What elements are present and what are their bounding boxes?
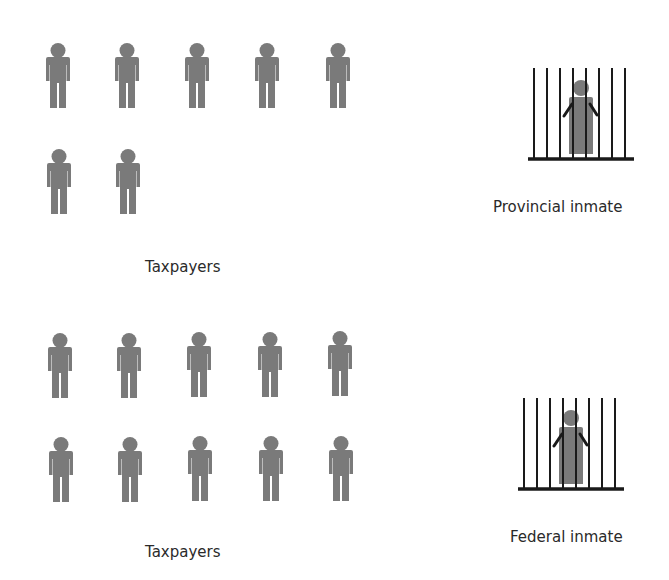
person-icon	[323, 43, 353, 109]
taxpayers-label: Taxpayers	[145, 258, 221, 276]
person-icon	[113, 149, 143, 215]
person-icon	[43, 43, 73, 109]
jailed-person-icon	[528, 68, 634, 164]
person-icon	[114, 333, 144, 399]
person-icon	[185, 436, 215, 502]
person-icon	[184, 332, 214, 398]
inmate-label: Federal inmate	[510, 528, 623, 546]
person-icon	[182, 43, 212, 109]
person-icon	[252, 43, 282, 109]
person-icon	[115, 437, 145, 503]
person-icon	[326, 436, 356, 502]
person-icon	[46, 437, 76, 503]
person-icon	[45, 333, 75, 399]
person-icon	[256, 436, 286, 502]
person-icon	[112, 43, 142, 109]
person-icon	[44, 149, 74, 215]
person-icon	[325, 331, 355, 397]
person-icon	[255, 332, 285, 398]
inmate-label: Provincial inmate	[493, 198, 622, 216]
taxpayers-label: Taxpayers	[145, 543, 221, 561]
jailed-person-icon	[518, 398, 624, 494]
